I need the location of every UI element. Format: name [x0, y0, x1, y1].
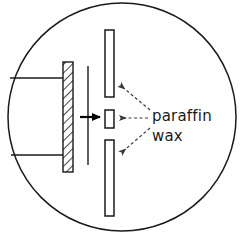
- hatched-source-block: [63, 62, 73, 172]
- pointer-arrow-bottom: [121, 128, 150, 153]
- target-plate-bottom: [105, 140, 114, 216]
- diagram-screenshot: paraffin wax: [0, 0, 243, 234]
- target-plate-middle: [105, 110, 114, 128]
- target-plate-top: [105, 30, 114, 97]
- label-wax: wax: [152, 127, 183, 145]
- apparatus-diagram: paraffin wax: [0, 0, 243, 234]
- label-paraffin: paraffin: [152, 107, 212, 125]
- pointer-arrow-top: [120, 85, 150, 110]
